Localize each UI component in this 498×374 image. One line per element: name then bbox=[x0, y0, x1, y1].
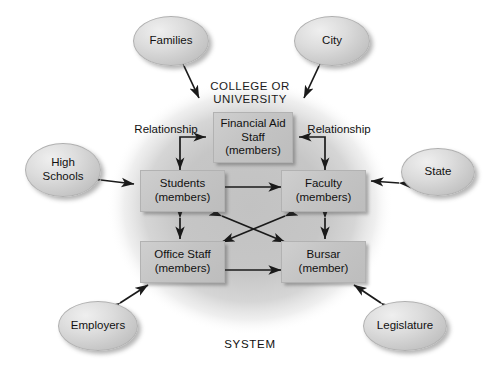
node-students[interactable]: Students (members) bbox=[140, 170, 225, 212]
node-office-staff-line2: (members) bbox=[155, 262, 211, 276]
node-high-schools[interactable]: High Schools bbox=[25, 143, 101, 197]
relationship-label-right: Relationship bbox=[301, 123, 377, 136]
node-bursar-line2: (member) bbox=[299, 262, 349, 276]
node-financial-aid-staff-line3: (members) bbox=[225, 144, 281, 158]
node-office-staff[interactable]: Office Staff (members) bbox=[140, 241, 225, 283]
node-financial-aid-staff[interactable]: Financial Aid Staff (members) bbox=[213, 112, 293, 163]
node-employers-label: Employers bbox=[71, 319, 125, 333]
node-bursar[interactable]: Bursar (member) bbox=[281, 241, 366, 283]
node-city-label: City bbox=[322, 34, 342, 48]
node-legislature-label: Legislature bbox=[377, 319, 433, 333]
system-title: COLLEGE OR UNIVERSITY bbox=[196, 80, 304, 106]
node-employers[interactable]: Employers bbox=[58, 301, 138, 351]
node-state[interactable]: State bbox=[401, 148, 475, 196]
node-families[interactable]: Families bbox=[133, 16, 209, 66]
node-state-label: State bbox=[425, 165, 452, 179]
node-city[interactable]: City bbox=[294, 16, 370, 66]
node-financial-aid-staff-line1: Financial Aid bbox=[220, 117, 285, 131]
system-title-line2: UNIVERSITY bbox=[196, 93, 304, 106]
diagram-canvas: COLLEGE OR UNIVERSITY Relationship Relat… bbox=[0, 0, 498, 374]
node-financial-aid-staff-line2: Staff bbox=[241, 131, 264, 145]
node-office-staff-line1: Office Staff bbox=[154, 248, 210, 262]
node-high-schools-line1: High bbox=[51, 156, 75, 170]
node-bursar-line1: Bursar bbox=[307, 248, 341, 262]
node-faculty-line2: (members) bbox=[296, 191, 352, 205]
system-title-line1: COLLEGE OR bbox=[196, 80, 304, 93]
arrow-legislature-system bbox=[354, 285, 381, 303]
node-faculty-line1: Faculty bbox=[305, 177, 342, 191]
node-faculty[interactable]: Faculty (members) bbox=[281, 170, 366, 212]
node-students-line1: Students bbox=[160, 177, 205, 191]
node-families-label: Families bbox=[150, 34, 193, 48]
arrow-employers-system bbox=[120, 285, 148, 303]
system-bottom-label: SYSTEM bbox=[216, 338, 284, 351]
node-students-line2: (members) bbox=[155, 191, 211, 205]
node-legislature[interactable]: Legislature bbox=[363, 301, 447, 351]
relationship-label-left: Relationship bbox=[128, 123, 204, 136]
node-high-schools-line2: Schools bbox=[43, 170, 84, 184]
